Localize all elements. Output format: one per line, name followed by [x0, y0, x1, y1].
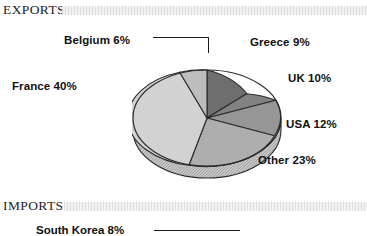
pie-label-usa: USA 12% [286, 118, 337, 130]
imports-header-rule [64, 202, 367, 211]
south-korea-leader-line [154, 230, 240, 231]
imports-label-south-korea: South Korea 8% [36, 224, 124, 236]
imports-title: IMPORTS [3, 198, 64, 214]
imports-section-header: IMPORTS [0, 198, 367, 218]
pie-label-other: Other 23% [258, 154, 316, 166]
pie-label-greece: Greece 9% [250, 36, 310, 48]
pie-label-france: France 40% [12, 80, 77, 92]
exports-pie-chart: Belgium 6% Greece 9% UK 10% France 40% U… [0, 22, 367, 192]
exports-section-header: EXPORTS [0, 2, 367, 22]
exports-header-rule [62, 6, 367, 15]
exports-imports-pie-figure: EXPORTS [0, 0, 367, 236]
exports-title: EXPORTS [3, 2, 65, 18]
pie-label-belgium: Belgium 6% [64, 34, 130, 46]
belgium-leader-line-horizontal [153, 37, 209, 38]
pie-label-uk: UK 10% [288, 72, 331, 84]
